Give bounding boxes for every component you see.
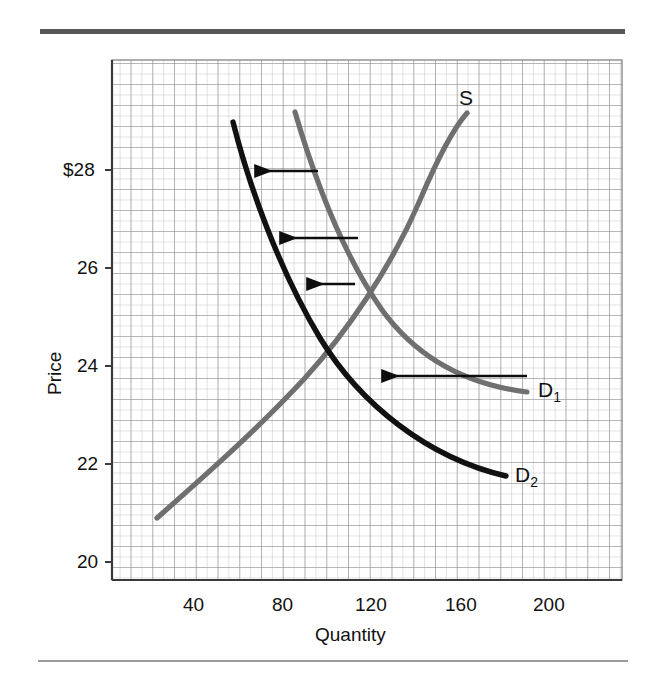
x-tick-label-120: 120 (355, 594, 387, 616)
y-tick-label-20: 20 (77, 551, 98, 573)
curve-label-d1-text: D (538, 378, 553, 401)
curve-label-d2-subscript: 2 (530, 474, 538, 490)
curve-label-demand-1: D1 (538, 378, 561, 405)
y-tick-label-24: 24 (77, 355, 98, 377)
curve-label-demand-2: D2 (515, 463, 538, 490)
y-tick-label-22: 22 (77, 453, 98, 475)
x-axis-title: Quantity (315, 624, 386, 646)
x-tick-label-160: 160 (445, 594, 477, 616)
curve-label-d2-text: D (515, 463, 530, 486)
curve-label-supply: S (459, 86, 473, 110)
x-tick-label-40: 40 (183, 594, 204, 616)
chart-plot-area (0, 0, 653, 690)
figure-container: $28 26 24 22 20 40 80 120 160 200 Price … (0, 0, 653, 690)
y-tick-label-26: 26 (77, 257, 98, 279)
y-axis-title: Price (44, 352, 66, 395)
bottom-horizontal-rule (38, 660, 628, 662)
grid-lines (112, 60, 622, 580)
y-tick-label-28: $28 (63, 159, 95, 181)
curve-label-d1-subscript: 1 (553, 389, 561, 405)
x-tick-label-200: 200 (533, 594, 565, 616)
x-tick-label-80: 80 (272, 594, 293, 616)
